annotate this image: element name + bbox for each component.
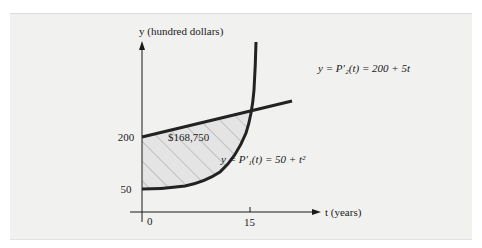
x-tick-label-15: 15 [244, 216, 256, 228]
y-axis-arrow-icon [139, 41, 145, 50]
p1-equation-label: y = P′₁(t) = 50 + t² [220, 153, 306, 166]
p2-equation-label: y = P′₂(t) = 200 + 5t [317, 62, 411, 75]
x-axis-arrow-icon [312, 209, 321, 215]
y-tick-label-200: 200 [118, 131, 135, 143]
y-tick-label-50: 50 [121, 183, 133, 195]
x-tick-label-0: 0 [147, 215, 153, 227]
area-value-label: $168,750 [168, 131, 210, 143]
x-axis-label: t (years) [325, 206, 362, 219]
chart-svg: y (hundred dollars) t (years) 0 15 50 20… [0, 0, 482, 248]
y-axis-label: y (hundred dollars) [139, 25, 224, 38]
